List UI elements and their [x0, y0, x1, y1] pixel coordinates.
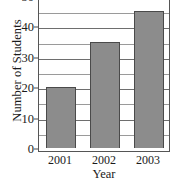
- bar-2001: [46, 87, 75, 148]
- y-tick-label: 40: [22, 21, 35, 34]
- y-tick-label: 20: [22, 82, 35, 95]
- bar-2002: [90, 42, 119, 148]
- plot-area: [38, 0, 170, 152]
- y-tick-label: 50: [22, 0, 35, 3]
- x-tick-label: 2003: [136, 154, 160, 166]
- bar-chart-figure: Number of Students 01020304050 200120022…: [0, 0, 174, 185]
- y-tick-label: 30: [22, 52, 35, 65]
- x-tick-label: 2001: [48, 154, 72, 166]
- y-tick-label: 10: [22, 112, 35, 125]
- y-axis-tick-labels: 01020304050: [0, 0, 38, 185]
- bar-2003: [134, 11, 163, 148]
- bar-series: [39, 0, 169, 151]
- x-axis-title: Year: [38, 168, 170, 181]
- x-tick-label: 2002: [92, 154, 116, 166]
